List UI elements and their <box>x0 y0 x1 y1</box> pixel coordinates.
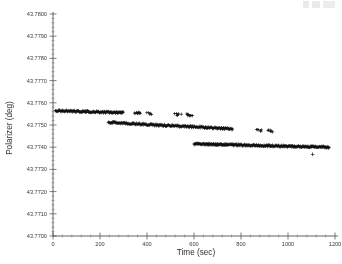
figure-canvas: 43.770043.771043.772043.773043.774043.77… <box>0 0 342 264</box>
y-tick-label: 43.7710 <box>27 211 47 217</box>
x-axis-title: Time (sec) <box>177 248 216 257</box>
x-tick-label: 200 <box>95 241 104 247</box>
y-tick-label: 43.7720 <box>27 189 47 195</box>
y-tick-label: 43.7770 <box>27 78 47 84</box>
y-tick-label: 43.7700 <box>27 233 47 239</box>
y-tick-label: 43.7760 <box>27 100 47 106</box>
x-tick-label: 1000 <box>282 241 294 247</box>
x-tick-label: 1200 <box>329 241 341 247</box>
y-tick-label: 43.7750 <box>27 122 47 128</box>
x-tick-label: 800 <box>236 241 245 247</box>
y-tick-label: 43.7790 <box>27 33 47 39</box>
scan-artifact-smudge <box>303 1 335 8</box>
x-tick-label: 0 <box>51 241 54 247</box>
y-tick-label: 43.7780 <box>27 55 47 61</box>
y-axis-title: Polarizer (deg) <box>5 101 14 155</box>
chart-background <box>0 0 342 264</box>
x-tick-label: 400 <box>142 241 151 247</box>
x-tick-label: 600 <box>189 241 198 247</box>
polarizer-vs-time-chart: 43.770043.771043.772043.773043.774043.77… <box>0 0 342 264</box>
y-tick-label: 43.7730 <box>27 166 47 172</box>
y-tick-label: 43.7740 <box>27 144 47 150</box>
y-tick-label: 43.7800 <box>27 11 47 17</box>
